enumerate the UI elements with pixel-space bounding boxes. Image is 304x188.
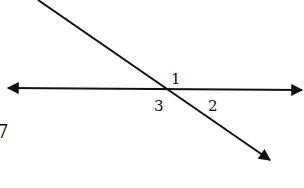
angle-label-3: 3 [154, 99, 164, 114]
horizontal-line [8, 88, 302, 90]
angle-label-2: 2 [208, 99, 218, 114]
edge-label-7: 7 [0, 123, 8, 141]
angle-label-1: 1 [171, 72, 181, 87]
intersecting-lines-diagram [0, 0, 304, 188]
transversal-line [38, 0, 270, 160]
